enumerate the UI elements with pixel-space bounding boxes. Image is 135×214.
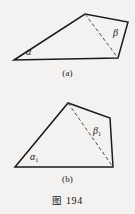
angle-label-alpha-b: α1 (30, 152, 39, 162)
figure-title-label: 图 (52, 195, 63, 206)
figure-b-diagonal-dashed (68, 103, 113, 167)
figure-title-number: 194 (63, 195, 83, 206)
angle-label-alpha-a: α (26, 47, 31, 57)
figure-page: α β α1 β1 (a) (b) 图 194 (0, 0, 135, 214)
figure-title: 图 194 (0, 193, 135, 207)
angle-label-beta-b: β1 (93, 126, 101, 136)
angle-label-alpha-b-subscript: 1 (35, 156, 38, 163)
figure-b-caption: (b) (0, 174, 135, 184)
angle-label-beta-b-subscript: 1 (98, 130, 101, 137)
angle-label-beta-a: β (113, 28, 118, 38)
figure-a-caption: (a) (0, 68, 135, 78)
